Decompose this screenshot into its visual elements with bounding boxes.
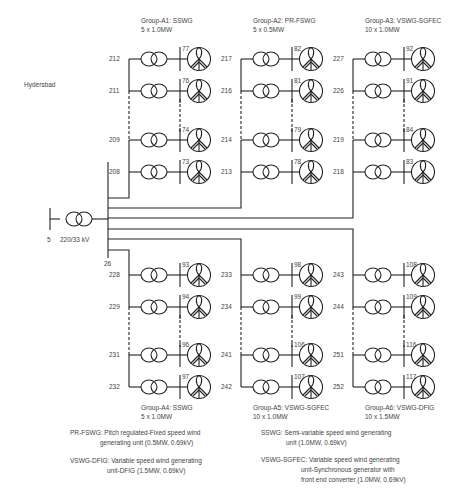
wind-turbine-icon <box>412 48 435 71</box>
generator-bus-label: 73 <box>182 158 189 166</box>
wind-turbine-icon <box>300 161 323 184</box>
feeder-bus-label: 231 <box>109 351 120 359</box>
generator-bus-label: 93 <box>182 261 189 269</box>
group-capacity-a6: 10 x 1.5MW <box>365 413 400 421</box>
generator-bus-label: 84 <box>406 126 413 134</box>
wind-turbine-icon <box>300 264 323 287</box>
feeder-bus-label: 244 <box>333 303 344 311</box>
group-capacity-a5: 10 x 1.0MW <box>253 413 288 421</box>
transformer-icon <box>253 300 279 314</box>
transformer-icon <box>365 52 391 66</box>
feeder-bus-label: 229 <box>109 303 120 311</box>
generator-bus-label: 76 <box>182 77 189 85</box>
feeder-bus-label: 242 <box>221 383 232 391</box>
group-title-a1: Group-A1: SSWG <box>141 17 193 25</box>
generator-bus-label: 117 <box>406 373 416 381</box>
transformer-icon <box>253 348 279 362</box>
transformer-icon <box>365 348 391 362</box>
legend-vswg-sgfec: VSWG-SGFEC: Variable speed wind generati… <box>261 455 406 485</box>
transformer-icon <box>141 84 167 98</box>
generator-bus-label: 107 <box>294 373 305 381</box>
wind-farm-single-line-diagram <box>0 0 469 498</box>
legend-vswg-dfig: VSWG-DFIG: Variable speed wind generatin… <box>70 456 202 476</box>
group-capacity-a4: 5 x 1.0MW <box>141 413 172 421</box>
source-name-label: Hydersbad <box>24 81 55 89</box>
legend-vswg-sgfec-line2: unit-Synchronous generator with <box>261 465 406 475</box>
feeder-bus-label: 241 <box>221 351 232 359</box>
generator-bus-label: 106 <box>294 341 305 349</box>
legend-vswg-sgfec-line1: VSWG-SGFEC: Variable speed wind generati… <box>261 455 406 465</box>
transformer-icon <box>141 133 167 147</box>
transformer-icon <box>253 133 279 147</box>
transformer-icon <box>365 133 391 147</box>
feeder-bus-label: 233 <box>221 271 232 279</box>
transformer-icon <box>141 268 167 282</box>
wind-turbine-icon <box>300 296 323 319</box>
transformer-icon <box>141 165 167 179</box>
wind-turbine-icon <box>300 129 323 152</box>
feeder-bus-label: 228 <box>109 271 120 279</box>
transformer-icon <box>365 165 391 179</box>
generator-bus-label: 91 <box>406 77 413 85</box>
feeder-bus-label: 214 <box>221 136 232 144</box>
feeder-bus-label: 213 <box>221 168 232 176</box>
group-capacity-a3: 10 x 1.0MW <box>365 26 400 34</box>
legend-sswg-line1: SSWG: Semi-variable speed wind generatin… <box>261 428 391 438</box>
legend-pr-fswg-line1: PR-FSWG: Pitch regulated-Fixed speed win… <box>70 428 200 438</box>
wind-turbine-icon <box>300 80 323 103</box>
transformer-icon <box>141 52 167 66</box>
group-title-a5: Group-A5: VSWG-SGFEC <box>253 404 329 412</box>
wind-turbine-icon <box>412 80 435 103</box>
transformer-icon <box>365 84 391 98</box>
feeder-bus-label: 217 <box>221 55 232 63</box>
wind-turbine-icon <box>300 48 323 71</box>
transformer-icon <box>141 348 167 362</box>
feeder-bus-label: 232 <box>109 383 120 391</box>
feeder-bus-label: 219 <box>333 136 344 144</box>
transformer-icon <box>253 380 279 394</box>
group-title-a3: Group-A3: VSWG-SGFEC <box>365 17 441 25</box>
transformer-rating-label: 220/33 kV <box>60 236 89 244</box>
generator-bus-label: 99 <box>294 293 301 301</box>
generator-bus-label: 98 <box>294 261 301 269</box>
wind-turbine-icon <box>188 48 211 71</box>
generator-bus-label: 116 <box>406 341 416 349</box>
transformer-icon <box>253 84 279 98</box>
group-title-a6: Group-A6: VSWG-DFIG <box>365 404 434 412</box>
transformer-icon <box>253 165 279 179</box>
wind-turbine-icon <box>188 296 211 319</box>
feeder-bus-label: 243 <box>333 271 344 279</box>
group-title-a2: Group-A2: PR-FSWG <box>253 17 315 25</box>
wind-turbine-icon <box>188 264 211 287</box>
wind-turbine-icon <box>412 161 435 184</box>
legend-pr-fswg-line2: generating unit (0.5MW, 0.69kV) <box>70 438 200 448</box>
feeder-bus-label: 251 <box>333 351 344 359</box>
legend-vswg-dfig-line2: unit-DFIG (1.5MW, 0.69kV) <box>70 466 202 476</box>
collector-bus-id-label: 26 <box>104 260 111 268</box>
wind-turbine-icon <box>412 129 435 152</box>
source-bus-id-label: 5 <box>47 236 51 244</box>
legend-pr-fswg: PR-FSWG: Pitch regulated-Fixed speed win… <box>70 428 200 448</box>
generator-bus-label: 92 <box>406 45 413 53</box>
generator-bus-label: 74 <box>182 126 189 134</box>
generator-bus-label: 79 <box>294 126 301 134</box>
generator-bus-label: 109 <box>406 293 417 301</box>
legend-vswg-dfig-line1: VSWG-DFIG: Variable speed wind generatin… <box>70 456 202 466</box>
feeder-bus-label: 218 <box>333 168 344 176</box>
legend-vswg-sgfec-line3: front end converter (1.0MW, 0.69kV) <box>261 475 406 485</box>
feeder-bus-label: 227 <box>333 55 344 63</box>
legend-sswg: SSWG: Semi-variable speed wind generatin… <box>261 428 391 448</box>
transformer-icon <box>253 268 279 282</box>
wind-turbine-icon <box>188 129 211 152</box>
generator-bus-label: 77 <box>182 45 189 53</box>
feeder-bus-label: 208 <box>109 168 120 176</box>
main-transformer-icon <box>66 212 92 226</box>
wind-turbine-icon <box>188 80 211 103</box>
feeder-bus-label: 211 <box>109 87 119 95</box>
transformer-icon <box>365 300 391 314</box>
wind-turbine-icon <box>188 344 211 367</box>
transformer-icon <box>253 52 279 66</box>
feeder-bus-label: 209 <box>109 136 120 144</box>
feeder-bus-label: 234 <box>221 303 232 311</box>
generator-bus-label: 78 <box>294 158 301 166</box>
